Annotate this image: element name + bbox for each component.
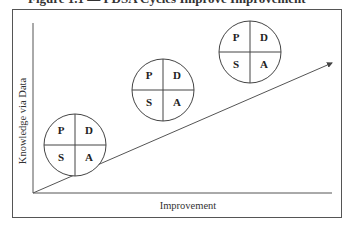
do-label: D [173,69,181,81]
act-label: A [85,151,93,163]
pdsa-cycle-1: P D S A [44,114,106,176]
do-label: D [260,31,268,43]
pdsa-cycle-2: P D S A [132,59,194,121]
pdsa-diagram: P D S A P D S A P D S A [0,0,354,229]
study-label: S [58,151,64,163]
pdsa-cycle-3: P D S A [219,21,281,83]
act-label: A [260,58,268,70]
study-label: S [146,96,152,108]
act-label: A [173,96,181,108]
x-axis-label: Improvement [160,200,217,211]
do-label: D [85,124,93,136]
y-axis-label: Knowledge via Data [17,78,28,164]
study-label: S [233,58,239,70]
plan-label: P [233,31,240,43]
plan-label: P [58,124,65,136]
plan-label: P [146,69,153,81]
